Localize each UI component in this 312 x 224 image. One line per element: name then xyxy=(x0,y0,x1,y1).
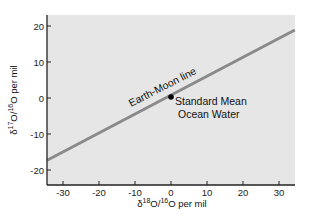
chart: -30-20-100102030 -20-1001020 Earth-Moon … xyxy=(0,0,312,224)
x-tick-label: -20 xyxy=(92,187,106,198)
plot-area xyxy=(47,15,295,185)
y-tick-label: 10 xyxy=(33,57,44,68)
x-axis-label: δ18O/16O per mil xyxy=(137,197,206,209)
smow-label-line1: Standard Mean xyxy=(175,95,247,107)
x-tick-label: -30 xyxy=(56,187,70,198)
x-tick-label: 20 xyxy=(238,187,249,198)
smow-label-line2: Ocean Water xyxy=(178,108,240,120)
smow-point xyxy=(168,94,174,100)
y-tick-label: -20 xyxy=(30,165,44,176)
y-axis-label: δ17O/16O per mil xyxy=(7,65,19,134)
x-tick-label: 0 xyxy=(168,187,173,198)
x-tick-label: 30 xyxy=(274,187,285,198)
y-tick-label: 0 xyxy=(39,93,44,104)
x-tick-label: -10 xyxy=(128,187,142,198)
y-tick-label: -10 xyxy=(30,129,44,140)
x-tick-label: 10 xyxy=(202,187,213,198)
y-tick-label: 20 xyxy=(33,21,44,32)
